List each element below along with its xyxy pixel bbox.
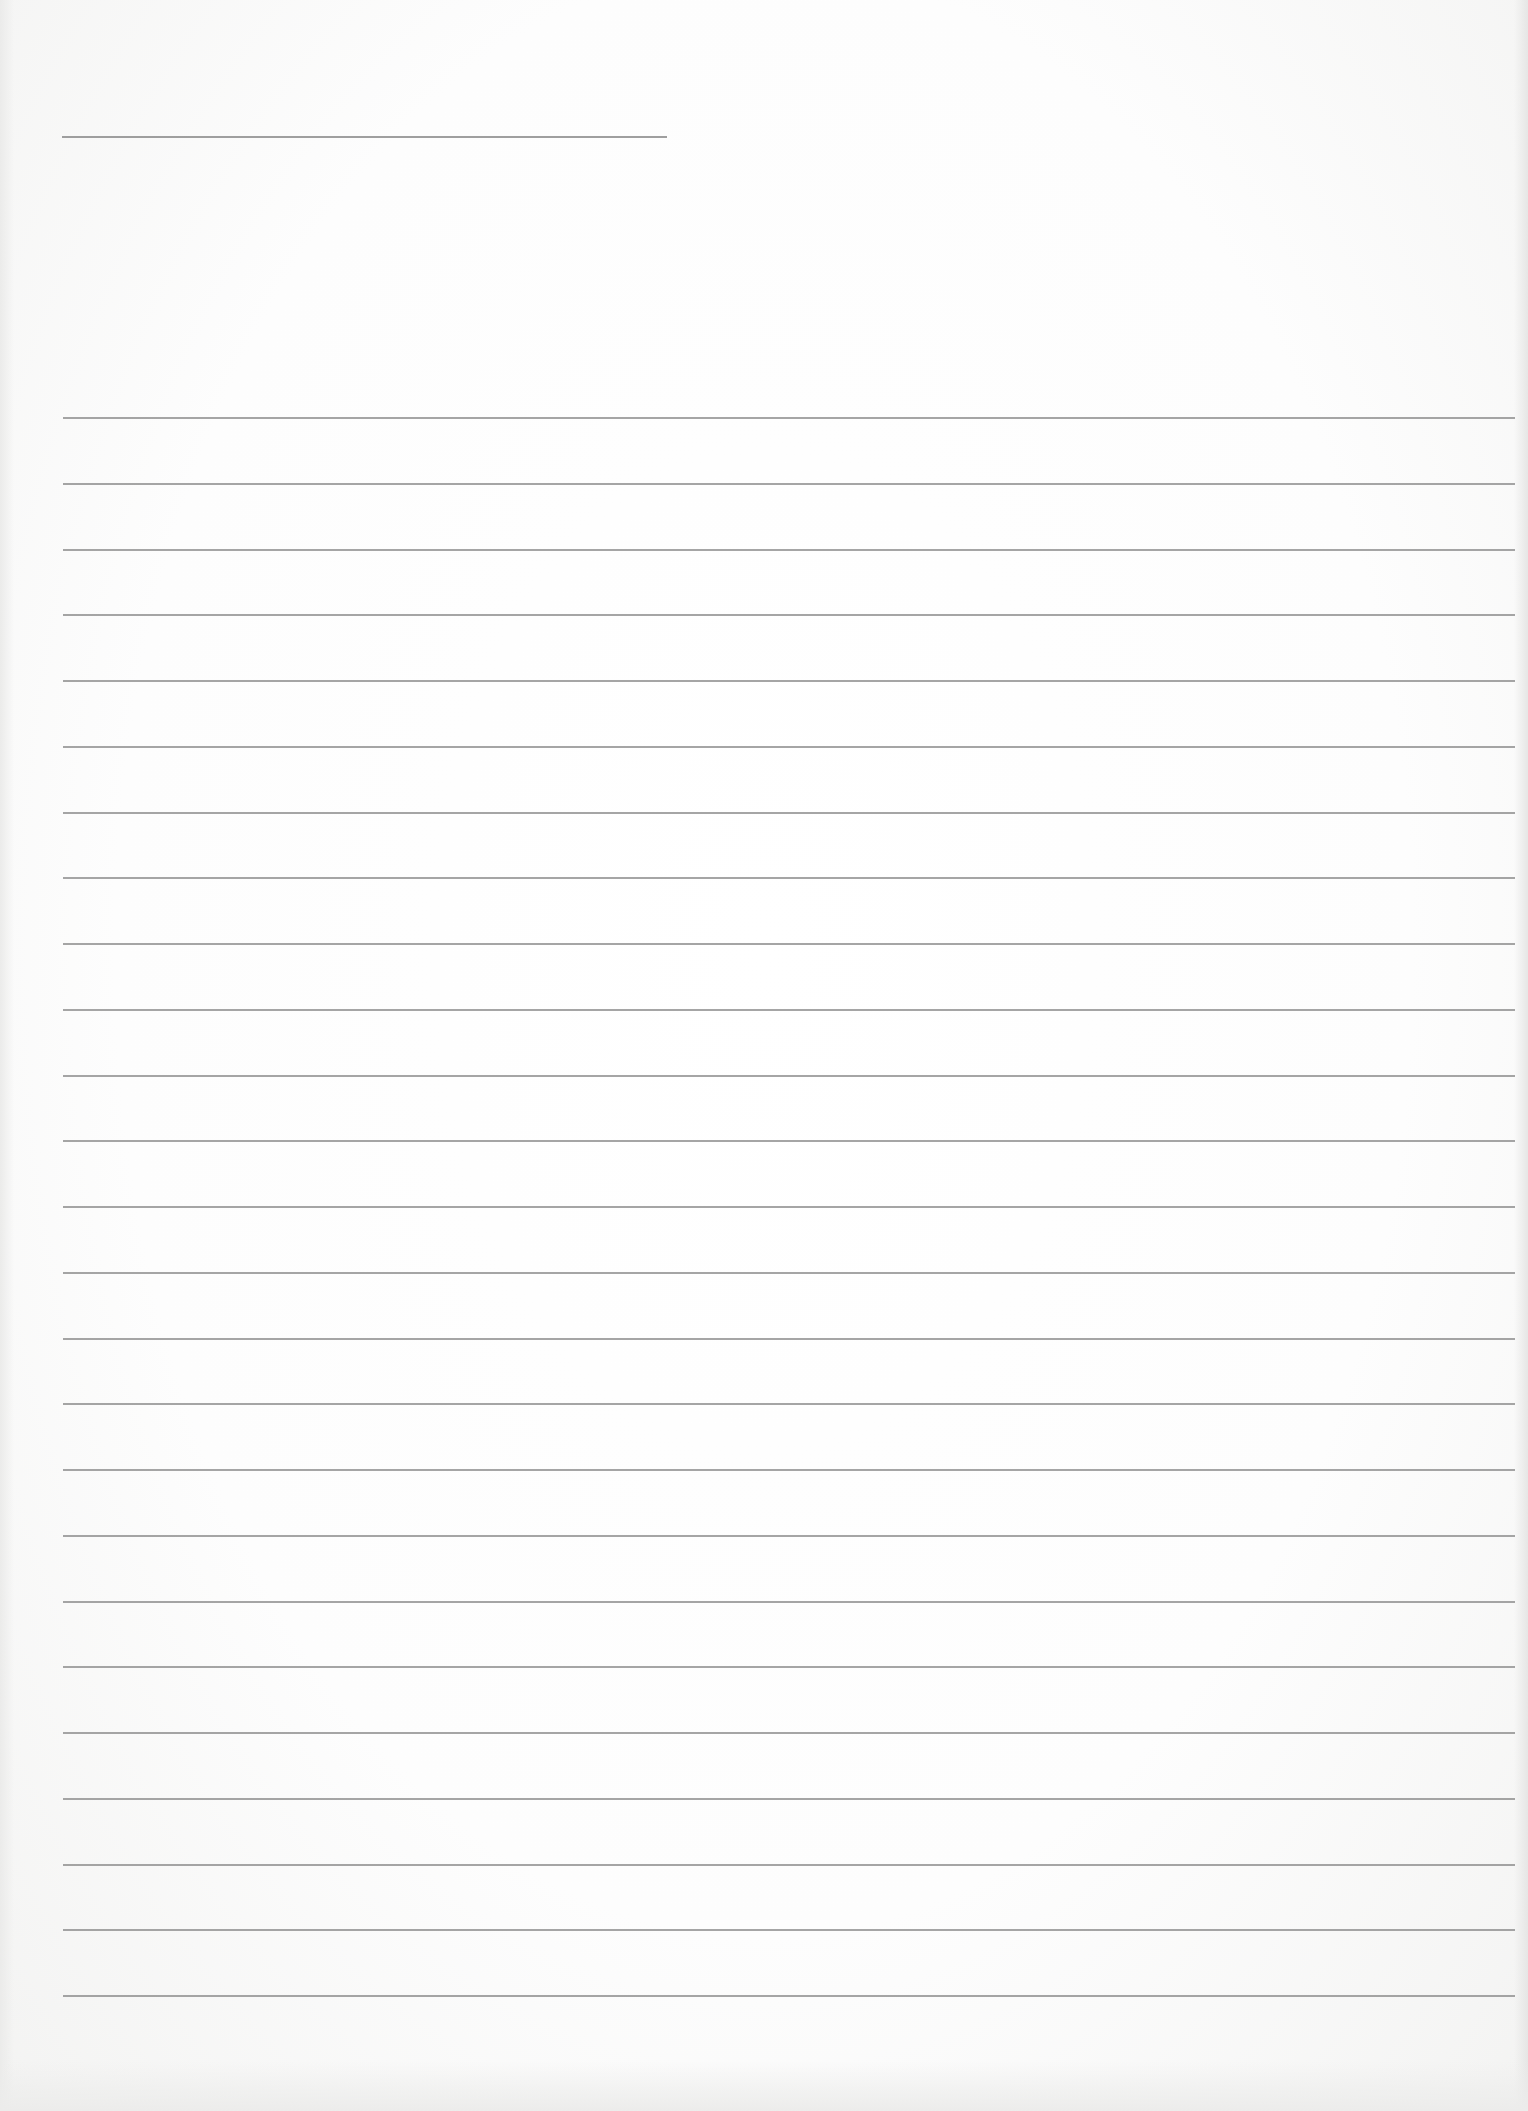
- ruled-line: [63, 746, 1515, 748]
- ruled-line: [63, 1075, 1515, 1077]
- ruled-line: [63, 877, 1515, 879]
- ruled-line: [63, 1798, 1515, 1800]
- ruled-line: [63, 1009, 1515, 1011]
- paper-edge-shadow-bottom: [0, 2061, 1528, 2111]
- ruled-line: [63, 943, 1515, 945]
- ruled-line: [63, 1666, 1515, 1668]
- ruled-line: [63, 1601, 1515, 1603]
- header-title-line: [62, 136, 667, 138]
- ruled-line: [63, 1864, 1515, 1866]
- ruled-line: [63, 680, 1515, 682]
- paper-edge-shadow-left: [0, 0, 14, 2111]
- ruled-line: [63, 1206, 1515, 1208]
- ruled-line: [63, 1403, 1515, 1405]
- ruled-line: [63, 1272, 1515, 1274]
- ruled-line: [63, 1732, 1515, 1734]
- ruled-line: [63, 1140, 1515, 1142]
- ruled-line: [63, 614, 1515, 616]
- lined-paper-page: [0, 0, 1528, 2111]
- ruled-line: [63, 1929, 1515, 1931]
- ruled-line: [63, 1995, 1515, 1997]
- paper-edge-shadow-right: [1514, 0, 1528, 2111]
- ruled-line: [63, 549, 1515, 551]
- ruled-line: [63, 812, 1515, 814]
- ruled-line: [63, 1469, 1515, 1471]
- ruled-line: [63, 1338, 1515, 1340]
- ruled-line: [63, 1535, 1515, 1537]
- ruled-line: [63, 483, 1515, 485]
- ruled-line: [63, 417, 1515, 419]
